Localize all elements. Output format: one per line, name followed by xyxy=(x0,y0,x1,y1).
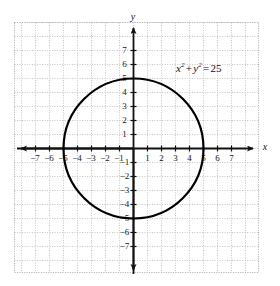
y-tick-label: −2 xyxy=(120,171,130,181)
x-tick-label: 4 xyxy=(187,153,192,163)
y-tick-label: 1 xyxy=(122,129,127,139)
equation-label: x2+y2=25 xyxy=(176,62,222,74)
y-tick-label: −1 xyxy=(120,157,130,167)
x-tick-label: 1 xyxy=(145,153,150,163)
x-axis-label: x xyxy=(262,141,268,152)
x-tick-label: 3 xyxy=(173,153,178,163)
x-tick-label: −4 xyxy=(72,153,82,163)
x-tick-label: −7 xyxy=(30,153,40,163)
y-tick-label: 6 xyxy=(122,59,127,69)
x-tick-label: 7 xyxy=(229,153,234,163)
plot-border xyxy=(15,23,259,273)
y-tick-label: −4 xyxy=(120,199,130,209)
y-tick-label: 3 xyxy=(122,101,127,111)
y-tick-label: −3 xyxy=(120,185,130,195)
x-tick-label: −6 xyxy=(44,153,54,163)
y-tick-label: 2 xyxy=(122,115,127,125)
y-tick-label: 4 xyxy=(122,87,127,97)
x-tick-label: −2 xyxy=(100,153,110,163)
y-tick-label: −6 xyxy=(120,227,130,237)
x-tick-label: −3 xyxy=(86,153,96,163)
equation-value: 25 xyxy=(210,62,221,74)
y-axis-label: y xyxy=(130,11,136,22)
x-tick-label: 6 xyxy=(215,153,220,163)
equation-plus-operator: + xyxy=(185,62,193,74)
grid-lines xyxy=(15,23,259,273)
coordinate-plane-figure: −7−6−5−4−3−2−11234567 7654321−1−2−3−4−5−… xyxy=(0,0,280,286)
y-tick-label: 7 xyxy=(122,45,127,55)
x-tick-label: 2 xyxy=(159,153,164,163)
graph-canvas: −7−6−5−4−3−2−11234567 7654321−1−2−3−4−5−… xyxy=(0,0,280,286)
y-tick-label: −7 xyxy=(120,241,130,251)
